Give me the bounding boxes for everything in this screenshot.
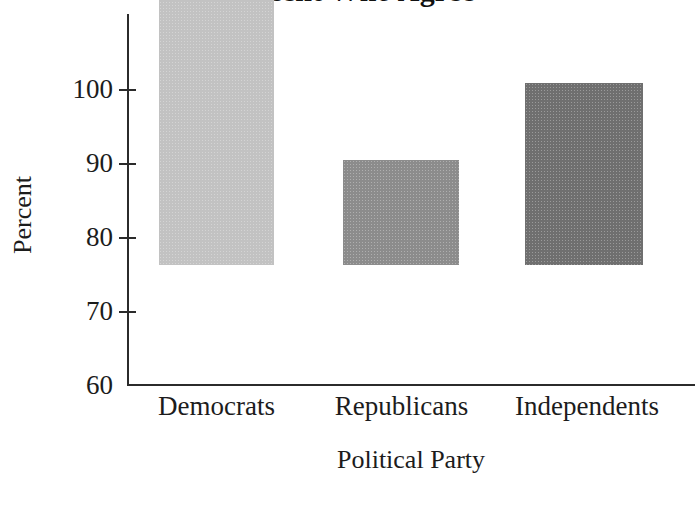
bar-chart-figure: Percent Who Agree Percent 100 90 80 70 6…: [0, 0, 698, 506]
bar-democrats: [159, 0, 274, 265]
x-tick-label-democrats: Democrats: [139, 391, 294, 421]
bar-republicans: [343, 160, 459, 265]
x-tick-label-independents: Independents: [489, 391, 685, 421]
plot-area: [0, 0, 698, 386]
x-tick-label-republicans: Republicans: [323, 391, 480, 421]
bar-independents: [525, 83, 643, 265]
x-axis-title: Political Party: [127, 445, 695, 475]
